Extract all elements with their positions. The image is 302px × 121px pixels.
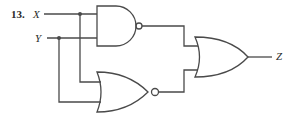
- wire-nand-out: [142, 26, 198, 46]
- wire-nor-out: [159, 70, 199, 92]
- logic-circuit-diagram: 13. X Y Z: [0, 0, 302, 121]
- nor-bubble: [152, 89, 159, 96]
- or-gate: [195, 37, 248, 77]
- junction-x: [78, 12, 82, 16]
- nor-gate: [97, 72, 148, 112]
- circuit-wiring: [0, 0, 302, 121]
- nand-gate: [97, 6, 136, 46]
- nand-bubble: [136, 23, 142, 29]
- junction-y: [57, 36, 61, 40]
